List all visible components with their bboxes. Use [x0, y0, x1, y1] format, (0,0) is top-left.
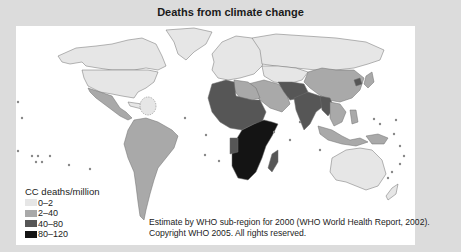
legend-label: 2–40 [38, 208, 58, 219]
legend-swatch-0-2 [25, 199, 37, 206]
legend-title: CC deaths/million [25, 187, 99, 198]
region-south-america [124, 118, 178, 220]
legend-swatch-2-40 [25, 210, 37, 217]
legend-item: 0–2 [25, 198, 99, 209]
legend-label: 80–120 [38, 229, 68, 240]
legend-item: 40–80 [25, 219, 99, 230]
region-png [366, 134, 388, 144]
region-new-zealand [386, 184, 398, 200]
credit-line-1: Estimate by WHO sub-region for 2000 (WHO… [149, 217, 430, 228]
region-russia [252, 34, 384, 70]
region-greenland [166, 28, 212, 60]
legend-swatch-80-120 [25, 231, 37, 238]
map-panel: CC deaths/million 0–2 2–40 40–80 80–120 … [16, 26, 415, 245]
region-southeast-asia [330, 102, 346, 126]
legend-swatch-40-80 [25, 220, 37, 227]
region-japan [364, 72, 374, 88]
region-angola [230, 138, 238, 154]
legend-label: 40–80 [38, 219, 63, 230]
region-caribbean-circle [140, 97, 156, 115]
region-madagascar [268, 150, 278, 172]
legend-label: 0–2 [38, 198, 53, 209]
source-credit: Estimate by WHO sub-region for 2000 (WHO… [149, 217, 430, 239]
region-australia [330, 148, 386, 190]
legend-item: 2–40 [25, 208, 99, 219]
credit-line-2: Copyright WHO 2005. All rights reserved. [149, 228, 430, 239]
region-philippines [350, 110, 358, 124]
legend-item: 80–120 [25, 229, 99, 240]
region-indonesia [318, 126, 368, 146]
map-title: Deaths from climate change [0, 6, 461, 18]
legend: CC deaths/million 0–2 2–40 40–80 80–120 [25, 187, 99, 240]
region-canada [58, 38, 166, 70]
